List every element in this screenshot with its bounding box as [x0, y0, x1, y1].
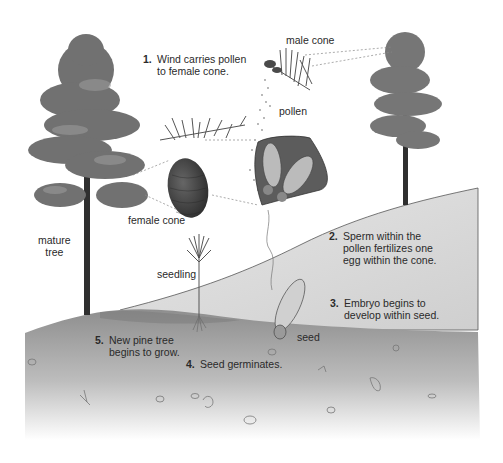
step-2: 2. Sperm within the pollen fertilizes on… — [329, 230, 436, 266]
label-female-cone: female cone — [128, 214, 185, 226]
mature-tree-illustration — [28, 34, 148, 315]
label-mature-tree: mature tree — [38, 234, 71, 258]
step-text: New pine tree begins to grow. — [109, 334, 180, 358]
step-number: 2. — [329, 230, 338, 242]
step-4: 4. Seed germinates. — [186, 358, 282, 370]
label-seedling: seedling — [157, 268, 196, 280]
step-text: Embryo begins to develop within seed. — [344, 297, 439, 321]
distant-tree-illustration — [370, 32, 442, 205]
pine-life-cycle-diagram: male cone pollen female cone mature tree… — [0, 0, 503, 463]
label-male-cone: male cone — [286, 34, 334, 46]
male-cone-illustration — [264, 48, 312, 90]
step-number: 1. — [143, 53, 152, 65]
female-cone-illustration — [160, 116, 246, 221]
step-number: 5. — [95, 334, 104, 346]
step-3: 3. Embryo begins to develop within seed. — [330, 297, 439, 321]
step-text: Wind carries pollen to female cone. — [157, 53, 246, 77]
step-number: 4. — [186, 358, 195, 370]
step-number: 3. — [330, 297, 339, 309]
label-pollen: pollen — [279, 105, 307, 117]
step-1: 1. Wind carries pollen to female cone. — [143, 53, 246, 77]
step-5: 5. New pine tree begins to grow. — [95, 334, 180, 358]
step-text: Sperm within the pollen fertilizes one e… — [343, 230, 436, 266]
step-text: Seed germinates. — [200, 358, 282, 370]
label-seed: seed — [297, 331, 320, 343]
